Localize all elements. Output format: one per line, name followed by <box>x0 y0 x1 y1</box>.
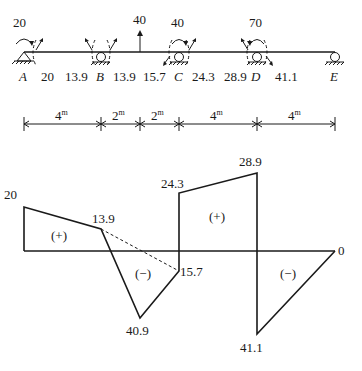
end-moment-label: 15.7 <box>143 69 166 84</box>
support-e-label: E <box>329 69 338 84</box>
moment-c-label: 40 <box>171 15 184 30</box>
dimension-label: 2m <box>151 108 165 123</box>
dimension-label: 2m <box>112 108 126 123</box>
dimension-label: 4m <box>288 108 302 123</box>
support-a-pin-icon <box>12 52 34 64</box>
end-moment-label: 20 <box>41 69 54 84</box>
value-label: 41.1 <box>240 340 263 355</box>
cut-arcs <box>33 40 267 66</box>
value-label: 40.9 <box>126 323 149 338</box>
point-load-label: 40 <box>133 12 146 27</box>
dimension-line: 4m 2m 2m 4m 4m <box>24 108 335 131</box>
value-label: 13.9 <box>92 211 115 226</box>
moment-a-label: 20 <box>13 15 26 30</box>
sign-label: (+) <box>209 209 225 224</box>
moment-curve <box>24 173 335 334</box>
beam: 20 40 40 70 A B C D E 20 13.9 13.9 15.7 … <box>12 12 344 84</box>
support-c-label: C <box>174 69 183 84</box>
end-moment-label: 28.9 <box>224 69 247 84</box>
dimension-label: 4m <box>55 108 69 123</box>
support-a-label: A <box>18 69 27 84</box>
value-label: 20 <box>4 187 17 202</box>
value-label: 15.7 <box>180 264 203 279</box>
beam-moment-diagram: 20 40 40 70 A B C D E 20 13.9 13.9 15.7 … <box>0 0 362 371</box>
moment-diagram: 20 13.9 40.9 15.7 24.3 28.9 41.1 0 (+) (… <box>4 154 345 355</box>
point-load-arrow-icon <box>137 30 143 52</box>
end-moment-label: 41.1 <box>275 69 298 84</box>
end-moment-label: 13.9 <box>65 69 88 84</box>
support-e-roller-icon <box>325 53 344 66</box>
value-label: 0 <box>338 243 345 258</box>
support-d-label: D <box>250 69 261 84</box>
end-moment-label: 24.3 <box>192 69 215 84</box>
support-b-label: B <box>96 69 104 84</box>
value-label: 28.9 <box>239 154 262 169</box>
support-c-roller-icon <box>169 53 188 66</box>
moment-d-label: 70 <box>249 15 262 30</box>
dashed-chord <box>101 229 179 271</box>
sign-label: (−) <box>280 266 296 281</box>
end-moment-label: 13.9 <box>113 69 136 84</box>
value-label: 24.3 <box>161 176 184 191</box>
support-d-roller-icon <box>247 53 266 66</box>
sign-label: (+) <box>51 228 67 243</box>
dimension-label: 4m <box>210 108 224 123</box>
sign-label: (−) <box>135 266 151 281</box>
